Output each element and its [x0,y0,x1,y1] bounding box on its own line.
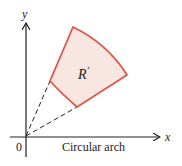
dashed-ray-lower [26,107,77,136]
dashed-ray-upper [26,81,50,136]
circular-arch-diagram: R′ y x 0 Circular arch [0,0,182,166]
origin-label: 0 [16,140,22,154]
y-axis-label: y [21,7,28,21]
x-axis-label: x [164,130,171,144]
caption: Circular arch [62,140,125,154]
